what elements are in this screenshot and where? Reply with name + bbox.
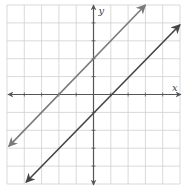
x-axis-label: x: [172, 82, 178, 93]
y-axis-label: y: [98, 5, 105, 16]
coordinate-plane: x y: [0, 0, 182, 190]
line-upper-y-equals-x-plus-2: [9, 5, 146, 146]
